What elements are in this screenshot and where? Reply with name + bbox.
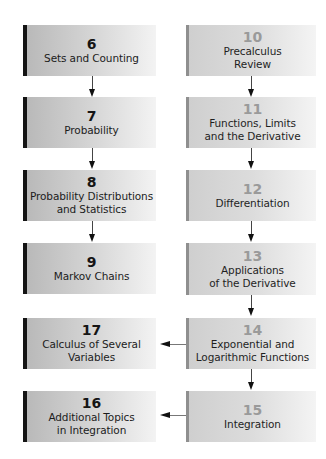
chapter-13-box: 13 Applications of the Derivative [186,243,316,295]
chapter-number: 11 [243,102,262,117]
chapter-7-box: 7 Probability [23,97,156,148]
chapter-number: 14 [243,323,262,338]
arrow-left-icon [160,341,170,347]
chapter-title-line: Probability Distributions [30,190,153,203]
chapter-number: 13 [243,249,262,264]
chapter-title-line: Differentiation [215,197,289,210]
chapter-title-line: Review [234,58,271,71]
chapter-14-box: 14 Exponential and Logarithmic Functions [186,318,316,369]
chapter-title-line: Probability [64,124,118,137]
arrow-down-icon [89,89,95,97]
chapter-title-line: and Statistics [57,203,127,216]
chapter-11-box: 11 Functions, Limits and the Derivative [186,97,316,148]
chapter-number: 15 [243,403,262,418]
chapter-16-box: 16 Additional Topics in Integration [23,391,156,442]
chapter-title-line: in Integration [57,424,126,437]
arrow-down-icon [248,161,254,169]
chapter-number: 10 [243,30,262,45]
chapter-10-box: 10 Precalculus Review [186,25,316,76]
arrow-8-to-9-line [92,221,93,235]
arrow-14-to-17-line [168,344,186,345]
chapter-title-line: Additional Topics [48,411,134,424]
chapter-number: 16 [82,396,101,411]
arrow-down-icon [248,234,254,242]
arrow-down-icon [248,382,254,390]
arrow-down-icon [89,161,95,169]
chapter-title-line: Logarithmic Functions [196,351,309,364]
chapter-12-box: 12 Differentiation [186,170,316,221]
chapter-title-line: and the Derivative [205,130,301,143]
arrow-7-to-8-line [92,148,93,162]
chapter-title-line: Variables [68,351,115,364]
chapter-title-line: Integration [224,418,281,431]
arrow-14-to-15-line [251,369,252,383]
chapter-15-box: 15 Integration [186,391,316,442]
arrow-6-to-7-line [92,76,93,90]
chapter-number: 17 [82,323,101,338]
chapter-number: 9 [87,255,97,270]
chapter-6-box: 6 Sets and Counting [23,25,156,76]
chapter-number: 8 [87,175,97,190]
chapter-17-box: 17 Calculus of Several Variables [23,318,156,369]
chapter-number: 6 [87,37,97,52]
arrow-down-icon [248,308,254,316]
chapter-8-box: 8 Probability Distributions and Statisti… [23,170,156,221]
arrow-down-icon [248,89,254,97]
chapter-title-line: Exponential and [211,338,295,351]
chapter-title-line: of the Derivative [209,277,295,290]
chapter-title-line: Markov Chains [54,270,130,283]
arrow-15-to-16-line [168,415,186,416]
chapter-number: 12 [243,182,262,197]
arrow-12-to-13-line [251,221,252,235]
chapter-title-line: Applications [221,264,284,277]
arrow-11-to-12-line [251,148,252,162]
chapter-9-box: 9 Markov Chains [23,243,156,294]
chapter-number: 7 [87,109,97,124]
chapter-title-line: Precalculus [223,45,281,58]
arrow-10-to-11-line [251,76,252,90]
arrow-down-icon [89,234,95,242]
chapter-title-line: Sets and Counting [44,52,139,65]
chapter-title-line: Functions, Limits [209,117,296,130]
arrow-left-icon [160,412,170,418]
arrow-13-to-14-line [251,295,252,309]
chapter-title-line: Calculus of Several [42,338,141,351]
